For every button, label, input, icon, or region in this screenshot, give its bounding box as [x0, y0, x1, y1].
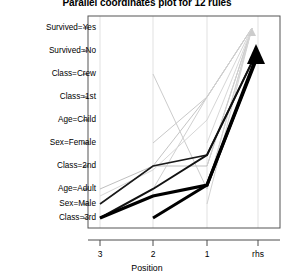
y-tick-label-age-adult: Age=Adult: [58, 185, 96, 193]
y-tick-label-sex-female: Sex=Female: [50, 139, 96, 147]
plot-border: [88, 16, 280, 228]
y-tick-label-class-2nd: Class=2nd: [57, 162, 96, 170]
chart-canvas: [0, 0, 294, 278]
y-tick-label-sex-male: Sex=Male: [59, 200, 96, 208]
y-tick-label-class-crew: Class=Crew: [52, 70, 96, 78]
x-tick-label-2: 2: [151, 249, 156, 259]
x-tick-label-1: 1: [205, 249, 210, 259]
x-tick-label-3: 3: [98, 249, 103, 259]
x-tick-label-rhs: rhs: [252, 249, 264, 259]
y-tick-label-age-child: Age=Child: [58, 116, 96, 124]
y-tick-label-survived-no: Survived=No: [49, 47, 96, 55]
dark-arrowhead: [247, 44, 265, 64]
y-tick-label-class-3rd: Class=3rd: [59, 214, 96, 222]
x-axis-title: Position: [0, 263, 294, 273]
parallel-coordinates-plot: Parallel coordinates plot for 12 rules: [0, 0, 294, 278]
plot-grid: [100, 16, 258, 228]
y-tick-label-class-1st: Class=1st: [60, 93, 96, 101]
x-axis-line: [88, 240, 280, 246]
y-tick-label-survived-yes: Survived=Yes: [46, 24, 96, 32]
